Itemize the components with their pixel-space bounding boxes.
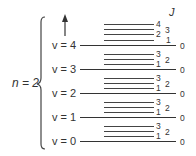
rot-label-v3-j2: 2 (165, 56, 170, 65)
rot-line-v2-j2 (104, 83, 154, 84)
rot-line-v3-j2 (104, 59, 154, 60)
rot-label-v1-j3: 3 (156, 98, 161, 107)
vib-level-label-v0: v = 0 (52, 136, 76, 147)
rot-line-v1-j3 (104, 102, 154, 103)
rot-line-v0-j1 (104, 136, 154, 137)
rot-line-v2-j1 (104, 88, 154, 89)
rot-line-v4-j1 (104, 40, 154, 41)
rot-label-v4-j1: 1 (166, 36, 171, 45)
rot-line-v1-j0 (80, 117, 176, 118)
rot-line-v4-j4 (104, 24, 154, 25)
rot-label-v4-j4: 4 (156, 20, 161, 29)
rot-label-v0-j0: 0 (180, 138, 185, 147)
vib-level-label-v4: v = 4 (52, 40, 76, 51)
rot-line-v2-j0 (80, 93, 176, 94)
rot-label-v0-j3: 3 (156, 122, 161, 131)
vib-level-label-v1: v = 1 (52, 112, 76, 123)
rot-line-v0-j3 (104, 126, 154, 127)
rot-line-v1-j2 (104, 107, 154, 108)
rot-line-v4-j0 (80, 45, 176, 46)
vib-level-label-v2: v = 2 (52, 88, 76, 99)
electronic-state-label: n = 2 (12, 78, 39, 89)
rot-line-v4-j3 (104, 29, 154, 30)
rot-line-v0-j2 (104, 131, 154, 132)
rotational-axis-label: J (169, 7, 175, 18)
rot-label-v3-j3: 3 (156, 50, 161, 59)
rot-label-v4-j2: 2 (156, 30, 161, 39)
rot-label-v2-j3: 3 (156, 74, 161, 83)
rot-label-v2-j1: 1 (156, 84, 161, 93)
rot-line-v3-j1 (104, 64, 154, 65)
rot-line-v3-j3 (104, 54, 154, 55)
rot-label-v1-j1: 1 (156, 108, 161, 117)
rot-label-v0-j2: 2 (165, 128, 170, 137)
rot-line-v2-j3 (104, 78, 154, 79)
rot-line-v3-j0 (80, 69, 176, 70)
rot-label-v2-j2: 2 (165, 80, 170, 89)
rot-label-v1-j0: 0 (180, 114, 185, 123)
rot-line-v1-j1 (104, 112, 154, 113)
rot-label-v3-j1: 1 (156, 60, 161, 69)
rot-label-v0-j1: 1 (156, 132, 161, 141)
rot-line-v4-j2 (104, 34, 154, 35)
rot-label-v4-j3: 3 (165, 26, 170, 35)
rot-label-v2-j0: 0 (180, 90, 185, 99)
rot-label-v3-j0: 0 (180, 66, 185, 75)
arrow-up-icon (62, 14, 68, 22)
rot-line-v0-j0 (80, 141, 176, 142)
rot-label-v1-j2: 2 (165, 104, 170, 113)
vib-level-label-v3: v = 3 (52, 64, 76, 75)
rot-label-v4-j0: 0 (180, 42, 185, 51)
